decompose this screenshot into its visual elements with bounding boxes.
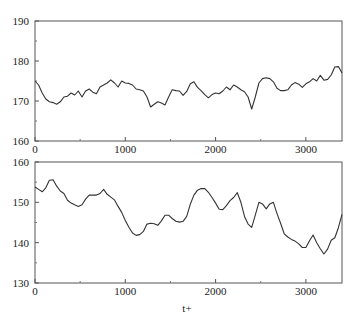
y-tick-label: 140 — [13, 237, 30, 249]
y-tick-label: 150 — [13, 196, 30, 208]
x-tick-label: 0 — [32, 285, 38, 297]
x-tick-label: 3000 — [295, 285, 318, 297]
y-tick-label: 130 — [13, 277, 30, 289]
y-tick-label: 190 — [13, 15, 30, 27]
y-tick-label: 180 — [13, 55, 30, 67]
x-tick-label: 1000 — [114, 143, 137, 155]
x-tick-label: 1000 — [114, 285, 137, 297]
chart-figure: 0100020003000160170180190 01000200030001… — [0, 0, 354, 321]
x-tick-label: 2000 — [205, 285, 228, 297]
top-plot-panel: 0100020003000160170180190 — [13, 15, 343, 155]
top-series-line — [35, 67, 342, 109]
y-tick-label: 160 — [13, 156, 30, 168]
bottom-axes-frame — [35, 162, 342, 283]
y-tick-label: 170 — [13, 95, 30, 107]
x-tick-label: 2000 — [205, 143, 228, 155]
x-tick-label: 3000 — [295, 143, 318, 155]
x-tick-label: 0 — [32, 143, 38, 155]
top-axes-frame — [35, 21, 342, 141]
x-axis-label: t+ — [182, 302, 191, 314]
bottom-plot-panel: 0100020003000130140150160t+ — [13, 156, 343, 314]
bottom-series-line — [35, 180, 342, 254]
y-tick-label: 160 — [13, 135, 30, 147]
